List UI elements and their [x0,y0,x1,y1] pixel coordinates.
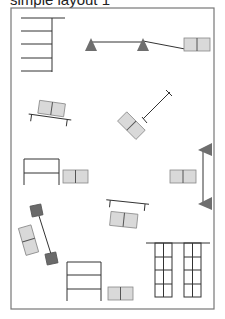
stanchion-triangle-icon [198,197,212,210]
right-middle-boxes [170,170,196,183]
left-table-boxes [63,170,88,183]
right-vertical-stanchion [198,143,212,210]
lower-left-posts [30,204,58,265]
lower-left-boxes [18,225,38,255]
shelf-top-left [21,18,65,72]
top-stanchion-line [85,38,185,51]
bottom-right-racks [146,243,210,297]
bottom-boxes [108,287,133,300]
left-table [24,159,59,185]
diagonal-desk-center [118,90,172,139]
stanchion-triangle-icon [198,143,212,156]
stanchion-triangle-icon [85,38,97,51]
lower-center-desk [104,200,149,229]
bottom-shelf [67,262,101,301]
layout-diagram [0,0,225,319]
tilted-desk-left [28,99,74,127]
stanchion-triangle-icon [137,38,149,51]
top-right-boxes [184,38,210,51]
